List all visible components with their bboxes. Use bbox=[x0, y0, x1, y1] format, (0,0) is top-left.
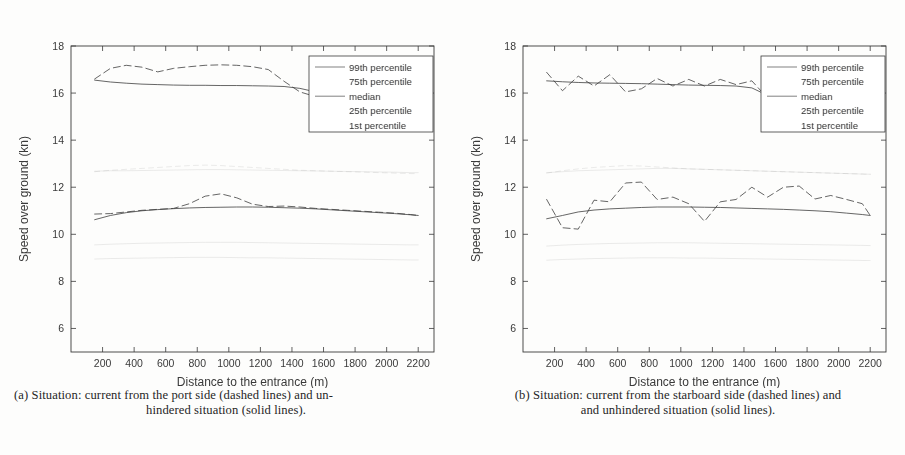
y-tick-label: 10 bbox=[52, 228, 64, 240]
x-tick-label: 1600 bbox=[764, 357, 788, 369]
x-tick-label: 2000 bbox=[375, 357, 399, 369]
x-tick-label: 1800 bbox=[795, 357, 819, 369]
x-tick-label: 1800 bbox=[343, 357, 367, 369]
caption-b-line-2: and unhindered situation (solid lines). bbox=[462, 403, 894, 418]
series-line bbox=[95, 207, 419, 220]
x-tick-label: 800 bbox=[188, 357, 206, 369]
x-tick-label: 600 bbox=[157, 357, 175, 369]
x-tick-label: 800 bbox=[640, 357, 658, 369]
series-line bbox=[95, 242, 419, 245]
y-tick-label: 8 bbox=[58, 275, 64, 287]
series-line bbox=[95, 165, 419, 173]
y-tick-label: 16 bbox=[504, 87, 516, 99]
series-line bbox=[547, 182, 871, 229]
caption-b-line-1: (b) Situation: current from the starboar… bbox=[462, 388, 894, 403]
series-line bbox=[95, 257, 419, 260]
y-axis-label: Speed over ground (kn) bbox=[17, 136, 31, 262]
x-tick-label: 2000 bbox=[827, 357, 851, 369]
x-tick-label: 1600 bbox=[312, 357, 336, 369]
legend-label: 1st percentile bbox=[349, 120, 406, 131]
x-tick-label: 200 bbox=[94, 357, 112, 369]
x-tick-label: 400 bbox=[577, 357, 595, 369]
x-tick-label: 1400 bbox=[732, 357, 756, 369]
y-tick-label: 8 bbox=[510, 275, 516, 287]
figure-page: 2004006008001000120014001600180020002200… bbox=[0, 0, 905, 455]
caption-a-line-2: hindered situation (solid lines). bbox=[14, 403, 438, 418]
y-tick-label: 10 bbox=[504, 228, 516, 240]
x-tick-label: 600 bbox=[609, 357, 627, 369]
y-tick-label: 14 bbox=[504, 134, 516, 146]
legend: 99th percentile75th percentilemedian25th… bbox=[761, 56, 885, 132]
x-tick-label: 1200 bbox=[249, 357, 273, 369]
x-tick-label: 200 bbox=[546, 357, 564, 369]
series-line bbox=[95, 170, 419, 173]
y-tick-label: 12 bbox=[52, 181, 64, 193]
plot-group: 2004006008001000120014001600180020002200… bbox=[17, 40, 434, 388]
x-tick-label: 2200 bbox=[859, 357, 883, 369]
y-tick-label: 6 bbox=[58, 322, 64, 334]
x-tick-label: 400 bbox=[125, 357, 143, 369]
legend-label: 99th percentile bbox=[349, 62, 412, 73]
chart-panel-a: 2004006008001000120014001600180020002200… bbox=[0, 0, 452, 400]
legend-label: 25th percentile bbox=[349, 105, 412, 116]
chart-b-canvas: 2004006008001000120014001600180020002200… bbox=[452, 0, 904, 388]
chart-a-canvas: 2004006008001000120014001600180020002200… bbox=[0, 0, 452, 388]
y-tick-label: 6 bbox=[510, 322, 516, 334]
y-axis-label: Speed over ground (kn) bbox=[469, 136, 483, 262]
legend-label: median bbox=[349, 91, 380, 102]
caption-b: (b) Situation: current from the starboar… bbox=[462, 388, 894, 418]
x-axis-label: Distance to the entrance (m) bbox=[177, 375, 328, 388]
y-tick-label: 14 bbox=[52, 134, 64, 146]
legend-label: 99th percentile bbox=[801, 62, 864, 73]
y-tick-label: 12 bbox=[504, 181, 516, 193]
figure-row: 2004006008001000120014001600180020002200… bbox=[0, 0, 905, 400]
legend-label: 75th percentile bbox=[349, 76, 412, 87]
series-line bbox=[547, 243, 871, 246]
caption-a: (a) Situation: current from the port sid… bbox=[14, 388, 438, 418]
legend-label: 1st percentile bbox=[801, 120, 858, 131]
legend-label: 25th percentile bbox=[801, 105, 864, 116]
y-tick-label: 18 bbox=[504, 40, 516, 52]
x-tick-label: 1400 bbox=[280, 357, 304, 369]
x-tick-label: 1000 bbox=[217, 357, 241, 369]
caption-a-line-1: (a) Situation: current from the port sid… bbox=[14, 388, 438, 403]
plot-group: 2004006008001000120014001600180020002200… bbox=[469, 40, 886, 388]
x-tick-label: 1200 bbox=[701, 357, 725, 369]
legend-label: 75th percentile bbox=[801, 76, 864, 87]
x-tick-label: 1000 bbox=[669, 357, 693, 369]
x-tick-label: 2200 bbox=[407, 357, 431, 369]
legend-label: median bbox=[801, 91, 832, 102]
series-line bbox=[547, 258, 871, 261]
x-axis-label: Distance to the entrance (m) bbox=[629, 375, 780, 388]
legend: 99th percentile75th percentilemedian25th… bbox=[309, 56, 433, 132]
y-tick-label: 18 bbox=[52, 40, 64, 52]
y-tick-label: 16 bbox=[52, 87, 64, 99]
chart-panel-b: 2004006008001000120014001600180020002200… bbox=[452, 0, 904, 400]
